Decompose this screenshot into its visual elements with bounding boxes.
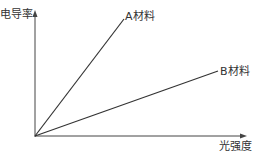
diagram-canvas [0, 0, 255, 160]
y-axis [33, 10, 38, 137]
series-b-label: B材料 [220, 66, 250, 77]
line-a [35, 19, 124, 136]
y-axis-arrow-icon [33, 10, 38, 17]
line-b [35, 71, 218, 136]
series-a-label: A材料 [125, 11, 155, 22]
x-axis [35, 134, 247, 139]
x-axis-arrow-icon [240, 134, 247, 139]
x-axis-label: 光强度 [219, 141, 252, 152]
y-axis-label: 电导率 [0, 9, 33, 20]
